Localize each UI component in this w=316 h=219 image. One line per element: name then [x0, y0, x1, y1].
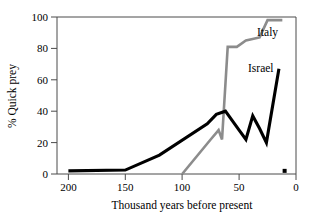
y-tick-label-0: 0 [43, 168, 49, 180]
x-axis-tick-labels: 200 150 100 50 0 [60, 181, 299, 193]
x-tick-label-200: 200 [60, 181, 77, 193]
x-axis-title: Thousand years before present [112, 199, 254, 212]
frame-border [57, 17, 296, 174]
series-label-israel: Israel [248, 62, 274, 74]
series-label-italy: Italy [257, 26, 278, 39]
plot-frame [57, 17, 296, 174]
point-markers [283, 169, 287, 173]
x-tick-label-50: 50 [234, 181, 246, 193]
y-tick-label-20: 20 [37, 137, 49, 149]
chart-figure: 100 80 60 40 20 0 % Quick prey 200 150 1… [0, 0, 316, 219]
x-tick-label-150: 150 [117, 181, 134, 193]
y-tick-label-80: 80 [37, 42, 49, 54]
x-axis-ticks [68, 174, 296, 180]
data-point-marker-0 [283, 169, 287, 173]
y-tick-label-60: 60 [37, 74, 49, 86]
series-line-israel [68, 69, 279, 171]
y-axis-tick-labels: 100 80 60 40 20 0 [32, 11, 49, 180]
y-axis-title: % Quick prey [6, 64, 19, 128]
y-tick-label-40: 40 [37, 105, 49, 117]
series-group [68, 20, 282, 174]
quick-prey-line-chart: 100 80 60 40 20 0 % Quick prey 200 150 1… [0, 0, 316, 219]
y-axis-ticks [51, 17, 57, 174]
y-tick-label-100: 100 [32, 11, 49, 23]
x-tick-label-0: 0 [293, 181, 299, 193]
series-line-italy [182, 20, 282, 174]
x-tick-label-100: 100 [174, 181, 191, 193]
